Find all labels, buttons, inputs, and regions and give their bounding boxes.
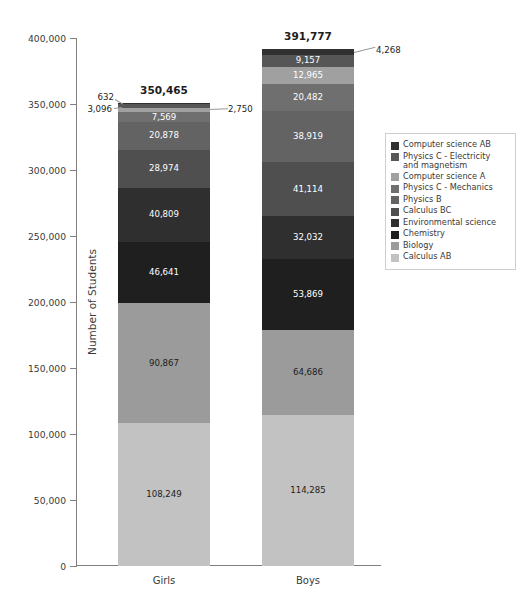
segment-value-label: 108,249 <box>146 490 182 499</box>
segment-value-label: 64,686 <box>293 368 323 377</box>
bar-segment: 9,157 <box>262 55 354 67</box>
stacked-bar-chart: 050,000100,000150,000200,000250,000300,0… <box>0 0 523 614</box>
legend-color-swatch <box>391 153 399 161</box>
legend-item[interactable]: Calculus BC <box>391 206 510 216</box>
y-tick-label: 400,000 <box>0 33 66 44</box>
legend-color-swatch <box>391 142 399 150</box>
segment-value-label: 38,919 <box>293 132 323 141</box>
bar-total-label: 391,777 <box>228 30 388 42</box>
bar-segment: 32,032 <box>262 216 354 258</box>
bar-boys: 114,28564,68653,86932,03241,11438,91920,… <box>262 49 354 566</box>
legend-color-swatch <box>391 254 399 262</box>
y-tick-label: 300,000 <box>0 165 66 176</box>
legend-item[interactable]: Computer science A <box>391 172 510 182</box>
bar-segment <box>118 103 210 104</box>
legend-item-label: Calculus AB <box>403 252 451 261</box>
bar-segment: 12,965 <box>262 67 354 84</box>
segment-value-label: 46,641 <box>149 268 179 277</box>
bar-segment: 53,869 <box>262 259 354 330</box>
x-tick-label-girls: Girls <box>153 575 176 586</box>
bar-segment: 64,686 <box>262 330 354 415</box>
legend-item-label: Environmental science <box>403 218 496 227</box>
callout-leader-line <box>354 47 376 53</box>
legend-item-label: Physics B <box>403 195 442 204</box>
legend-item-label: Physics C - Mechanics <box>403 183 493 192</box>
segment-value-label: 32,032 <box>293 233 323 242</box>
segment-value-label: 40,809 <box>149 210 179 219</box>
y-axis-title: Number of Students <box>86 202 98 402</box>
y-tick-label: 50,000 <box>0 495 66 506</box>
legend-item[interactable]: Chemistry <box>391 229 510 239</box>
legend-color-swatch <box>391 185 399 193</box>
bar-segment: 20,482 <box>262 84 354 111</box>
bar-segment: 46,641 <box>118 242 210 304</box>
bar-segment: 28,974 <box>118 150 210 188</box>
legend-item-label: Chemistry <box>403 229 445 238</box>
segment-value-label: 20,878 <box>149 131 179 140</box>
y-tick-label: 100,000 <box>0 429 66 440</box>
x-tick-label-boys: Boys <box>296 575 320 586</box>
segment-value-label: 41,114 <box>293 185 323 194</box>
segment-value-label: 20,482 <box>293 93 323 102</box>
legend-item[interactable]: Environmental science <box>391 218 510 228</box>
legend-color-swatch <box>391 231 399 239</box>
y-tick-label: 250,000 <box>0 231 66 242</box>
legend-rows: Computer science ABPhysics C - Electrici… <box>391 140 510 262</box>
legend-item[interactable]: Biology <box>391 241 510 251</box>
bar-segment: 38,919 <box>262 111 354 162</box>
bar-segment <box>118 104 210 108</box>
legend-item[interactable]: Computer science AB <box>391 140 510 150</box>
callout-label: 3,096 <box>87 104 112 114</box>
bar-segment: 20,878 <box>118 122 210 150</box>
segment-value-label: 114,285 <box>290 486 326 495</box>
legend-item-label: Calculus BC <box>403 206 451 215</box>
legend-item-label: Computer science AB <box>403 140 491 149</box>
segment-value-label: 9,157 <box>296 56 321 65</box>
legend-item-label: Physics C - Electricity and magnetism <box>403 152 490 170</box>
y-tick-label: 150,000 <box>0 363 66 374</box>
bar-segment: 114,285 <box>262 415 354 566</box>
legend-color-swatch <box>391 173 399 181</box>
bar-segment <box>118 108 210 112</box>
legend-color-swatch <box>391 208 399 216</box>
legend-color-swatch <box>391 196 399 204</box>
y-tick-mark <box>70 566 77 567</box>
y-tick-label: 200,000 <box>0 297 66 308</box>
segment-value-label: 53,869 <box>293 290 323 299</box>
bar-segment: 41,114 <box>262 162 354 216</box>
y-tick-label: 350,000 <box>0 99 66 110</box>
bar-segment: 7,569 <box>118 112 210 122</box>
segment-value-label: 28,974 <box>149 164 179 173</box>
y-tick-label: 0 <box>0 561 66 572</box>
segment-value-label: 7,569 <box>152 113 177 122</box>
legend-item-label: Computer science A <box>403 172 485 181</box>
bar-girls: 108,24990,86746,64140,80928,97420,8787,5… <box>118 103 210 566</box>
legend-color-swatch <box>391 242 399 250</box>
segment-value-label: 12,965 <box>293 71 323 80</box>
legend: Computer science ABPhysics C - Electrici… <box>385 133 516 270</box>
legend-item[interactable]: Calculus AB <box>391 252 510 262</box>
bar-segment: 108,249 <box>118 423 210 566</box>
legend-item[interactable]: Physics B <box>391 195 510 205</box>
callout-label: 632 <box>98 92 114 102</box>
callout-label: 4,268 <box>376 45 401 55</box>
bar-segment <box>262 49 354 55</box>
legend-item-label: Biology <box>403 241 433 250</box>
bar-segment: 90,867 <box>118 303 210 423</box>
legend-color-swatch <box>391 219 399 227</box>
plot-area: Number of Students 108,24990,86746,64140… <box>76 38 376 566</box>
segment-value-label: 90,867 <box>149 359 179 368</box>
bar-segment: 40,809 <box>118 188 210 242</box>
legend-item[interactable]: Physics C - Mechanics <box>391 183 510 193</box>
legend-item[interactable]: Physics C - Electricity and magnetism <box>391 152 510 170</box>
callout-leader-line <box>210 109 228 111</box>
callout-label: 2,750 <box>228 104 253 114</box>
